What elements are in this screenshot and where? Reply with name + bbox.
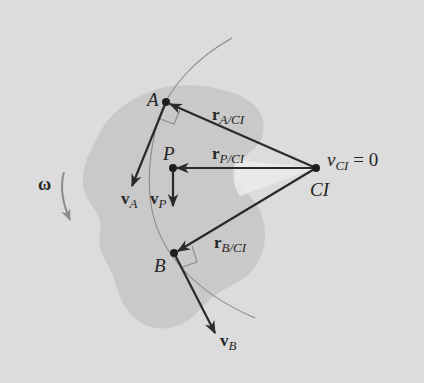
point-A-dot (162, 98, 170, 106)
r-B-main: r (214, 233, 222, 252)
omega-rotation-arrow (62, 172, 70, 220)
r-A-main: r (212, 105, 220, 124)
label-B: B (154, 256, 166, 275)
label-v-B: vB (220, 332, 236, 349)
label-v-CI-zero: vCI = 0 (327, 150, 378, 169)
highlight-region (233, 160, 316, 196)
label-v-P: vP (150, 190, 166, 207)
r-P-main: r (212, 144, 220, 163)
label-CI: CI (310, 180, 329, 199)
diagram-canvas: A P B CI rA/CI rP/CI rB/CI vA vP vB vCI … (0, 0, 424, 383)
v-B-sub: B (229, 338, 237, 353)
label-omega: ω (38, 175, 51, 193)
v-P-main: v (150, 189, 159, 208)
point-CI-dot (312, 164, 320, 172)
label-v-A: vA (121, 190, 137, 207)
point-B-dot (170, 249, 178, 257)
r-A-sub: A/CI (220, 112, 245, 127)
label-r-P-CI: rP/CI (212, 145, 244, 162)
r-P-sub: P/CI (220, 151, 245, 166)
label-P: P (163, 144, 175, 163)
v-A-main: v (121, 189, 130, 208)
label-r-B-CI: rB/CI (214, 234, 246, 251)
v-P-sub: P (159, 196, 167, 211)
point-P-dot (169, 164, 177, 172)
label-r-A-CI: rA/CI (212, 106, 244, 123)
v-B-main: v (220, 331, 229, 350)
v-A-sub: A (130, 196, 138, 211)
diagram-graphics (0, 0, 424, 383)
label-A: A (147, 90, 159, 109)
v-CI-equals: = 0 (348, 149, 378, 170)
r-B-sub: B/CI (222, 240, 247, 255)
v-CI-sub: CI (335, 158, 348, 173)
